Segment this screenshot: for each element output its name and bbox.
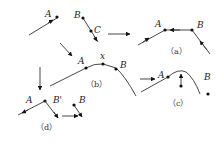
label-a: A <box>77 56 85 66</box>
panel-a: A B （a） <box>138 19 210 56</box>
initial-segment-a: A <box>29 9 59 35</box>
label-b: B <box>196 20 204 30</box>
diagram-svg: A B C A B （a） A x B （b） <box>0 0 224 144</box>
label-x: x <box>100 51 105 61</box>
panel-b: A x B （b） <box>50 51 136 96</box>
label-a: A <box>154 19 162 29</box>
panel-d: A B' B （d） <box>18 95 86 132</box>
label-c: C <box>94 25 101 35</box>
label-b: B <box>78 95 86 105</box>
arrow-to-b <box>60 43 72 56</box>
label-a: A <box>157 70 165 80</box>
label-a: A <box>25 95 33 105</box>
caption-b: （b） <box>86 80 107 89</box>
label-b-prime: B' <box>52 95 62 105</box>
caption-d: （d） <box>36 123 57 132</box>
label-a: A <box>44 9 52 19</box>
caption-a: （a） <box>166 47 187 56</box>
initial-segment-bc: B C <box>73 10 101 42</box>
label-b: B <box>119 60 127 70</box>
label-b: B <box>73 10 81 20</box>
label-b: B <box>203 72 211 82</box>
caption-c: （c） <box>168 99 188 108</box>
diagram-canvas: A B C A B （a） A x B （b） <box>0 0 224 144</box>
panel-c: A B （c） <box>141 70 211 108</box>
